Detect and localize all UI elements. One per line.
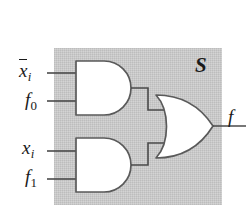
input-label-f0: f0 [25,90,37,113]
module-label-s: S [195,55,207,76]
input-label-f1: f1 [25,167,37,190]
input-label-xbar-i: xi [19,60,31,84]
input-label-x-i: xi [22,138,34,161]
output-label-f: f [228,107,233,126]
circuit-diagram-canvas [0,0,247,213]
and-gate-upper [76,61,131,115]
logic-circuit-figure: xi f0 xi f1 S f [0,0,247,213]
and-gate-lower [76,138,131,192]
